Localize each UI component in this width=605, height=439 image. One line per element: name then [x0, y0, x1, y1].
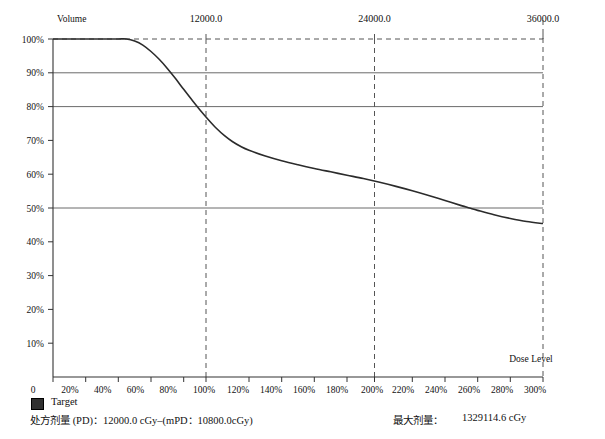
y-tick-label-40: 40% [27, 237, 45, 247]
legend-swatch-target [31, 398, 44, 410]
y-tick-label-20: 20% [27, 305, 45, 315]
dvh-chart: 12000.0 24000.0 36000.0 Volume Dose Leve… [0, 0, 605, 439]
x-axis-ticks [53, 377, 543, 382]
x-tick-label-220: 220% [392, 385, 414, 395]
x-tick-label-280: 280% [491, 385, 513, 395]
y-tick-label-60: 60% [27, 170, 45, 180]
y-tick-label-10: 10% [27, 339, 45, 349]
y-tick-label-80: 80% [27, 102, 45, 112]
y-axis-ticks [48, 39, 53, 343]
x-tick-label-100: 100% [193, 385, 215, 395]
y-tick-label-70: 70% [27, 136, 45, 146]
x-tick-label-160: 160% [293, 385, 315, 395]
x-tick-label-80: 80% [159, 385, 177, 395]
x-tick-label-120: 120% [227, 385, 249, 395]
top-axis-ticks [206, 34, 543, 39]
max-dose-label: 最大剂量： [393, 412, 443, 427]
y-tick-label-30: 30% [27, 271, 45, 281]
y-tick-label-50: 50% [27, 204, 45, 214]
x-tick-label-200: 200% [361, 385, 383, 395]
x-tick-label-0: 0 [31, 385, 36, 395]
y-axis-title: Volume [57, 14, 86, 24]
max-dose-value: 1329114.6 cGy [462, 412, 526, 423]
x-tick-label-60: 60% [127, 385, 145, 395]
dvh-plot-svg: 12000.0 24000.0 36000.0 Volume Dose Leve… [0, 0, 605, 439]
prescription-dose-text: 处方剂量 (PD)：12000.0 cGy–(mPD：10800.0cGy) [30, 412, 253, 427]
x-tick-label-180: 180% [326, 385, 348, 395]
footer-row: 处方剂量 (PD)：12000.0 cGy–(mPD：10800.0cGy) 最… [0, 412, 605, 434]
x-tick-label-240: 240% [425, 385, 447, 395]
y-tick-label-90: 90% [27, 68, 45, 78]
x-tick-label-40: 40% [94, 385, 112, 395]
top-axis-label-0: 12000.0 [190, 13, 223, 24]
y-tick-label-100: 100% [22, 35, 44, 45]
top-axis-label-2: 36000.0 [527, 13, 560, 24]
legend-label-target: Target [51, 396, 77, 407]
x-tick-label-140: 140% [260, 385, 282, 395]
dvh-curve-target [53, 39, 543, 224]
dashed-guides [53, 20, 543, 377]
x-tick-label-300: 300% [524, 385, 546, 395]
x-tick-label-260: 260% [458, 385, 480, 395]
x-tick-label-20: 20% [61, 385, 79, 395]
top-axis-label-1: 24000.0 [358, 13, 391, 24]
x-axis-title: Dose Level [509, 354, 553, 364]
reference-lines [53, 73, 543, 208]
